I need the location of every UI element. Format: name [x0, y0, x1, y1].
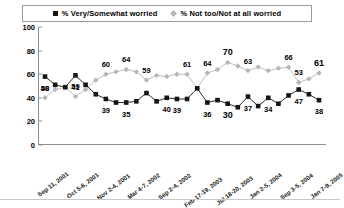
- data-label: 60: [102, 60, 110, 69]
- series-canvas: [39, 27, 327, 145]
- data-label: 64: [122, 55, 130, 64]
- data-label: 30: [223, 110, 233, 120]
- data-label: 63: [244, 56, 252, 65]
- y-axis-tick-40: 40: [27, 93, 39, 102]
- y-axis-tick-60: 60: [27, 70, 39, 79]
- legend-diamond-marker-icon: [170, 10, 177, 17]
- legend-item-not-worried: % Not too/Not at all worried: [171, 9, 281, 18]
- legend-square-marker-icon: [53, 11, 58, 16]
- y-axis-tickmark: [39, 121, 42, 122]
- data-label: 37: [244, 103, 252, 112]
- plot-area: 0204060801005859393540393630373447384041…: [38, 27, 326, 145]
- data-label: 38: [315, 107, 323, 116]
- y-axis-tickmark: [39, 27, 42, 28]
- data-label: 41: [71, 82, 79, 91]
- y-axis-tickmark: [39, 74, 42, 75]
- y-axis-tick-100: 100: [22, 23, 39, 32]
- y-axis-tick-80: 80: [27, 46, 39, 55]
- data-label: 64: [203, 59, 211, 68]
- legend-label-not-worried: % Not too/Not at all worried: [180, 9, 281, 18]
- bottom-divider: [0, 199, 340, 200]
- legend-label-worried: % Very/Somewhat worried: [62, 9, 158, 18]
- x-axis-tick-label: Jan 2-5, 2004: [248, 171, 283, 200]
- x-axis-tick-label: Sep 2-4, 2002: [156, 172, 192, 201]
- data-label: 39: [173, 105, 181, 114]
- data-label: 40: [41, 83, 49, 92]
- legend-item-worried: % Very/Somewhat worried: [53, 9, 158, 18]
- data-label: 70: [223, 47, 233, 57]
- data-label: 53: [295, 68, 303, 77]
- data-label: 39: [102, 105, 110, 114]
- data-label: 36: [203, 109, 211, 118]
- data-label: 40: [163, 104, 171, 113]
- y-axis-tickmark: [39, 50, 42, 51]
- data-label: 34: [264, 104, 272, 113]
- data-label: 61: [183, 60, 191, 69]
- y-axis-tick-20: 20: [27, 117, 39, 126]
- data-label: 47: [295, 96, 303, 105]
- x-axis-labels: Sep 11, 2001Oct 5-6, 2001Nov 2-4, 2001Ma…: [0, 146, 340, 200]
- x-axis-tick-label: Jan 7-9, 2005: [309, 171, 344, 200]
- x-axis-tick-label: Mar 4-7, 2002: [126, 171, 161, 200]
- data-label: 59: [142, 66, 150, 75]
- chart-legend: % Very/Somewhat worried % Not too/Not at…: [22, 5, 312, 22]
- data-label: 66: [284, 53, 292, 62]
- x-axis-tick-label: Nov 2-4, 2001: [95, 172, 131, 201]
- data-label: 35: [122, 109, 130, 118]
- y-axis-tickmark: [39, 97, 42, 98]
- data-label: 61: [314, 58, 324, 68]
